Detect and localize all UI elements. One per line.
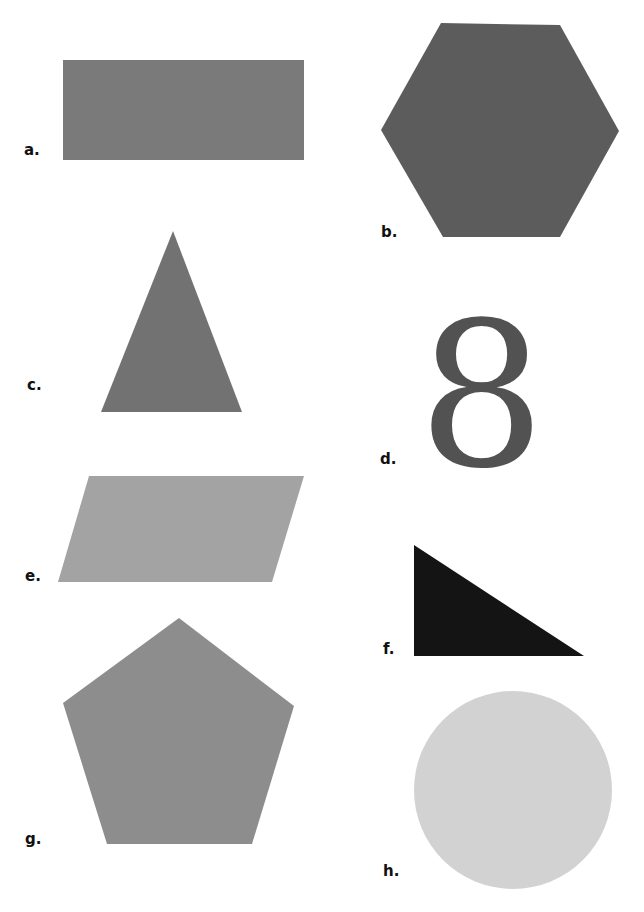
- label-e: e.: [25, 569, 41, 584]
- shape-c-triangle: [101, 231, 242, 412]
- shape-f-right-triangle: [414, 545, 584, 656]
- shape-g-pentagon: [63, 618, 294, 844]
- label-b: b.: [381, 225, 397, 240]
- shape-a-rectangle: [63, 60, 304, 160]
- label-d: d.: [380, 452, 396, 467]
- shapes-canvas: [0, 0, 644, 912]
- label-g: g.: [25, 832, 41, 847]
- shape-h-circle: [414, 691, 612, 889]
- shape-d-numeral-eight: 8: [418, 296, 538, 476]
- label-a: a.: [24, 143, 40, 158]
- label-h: h.: [383, 864, 399, 879]
- shape-b-hexagon: [381, 23, 619, 237]
- shape-e-parallelogram: [58, 476, 304, 582]
- label-f: f.: [383, 642, 394, 657]
- label-c: c.: [27, 378, 42, 393]
